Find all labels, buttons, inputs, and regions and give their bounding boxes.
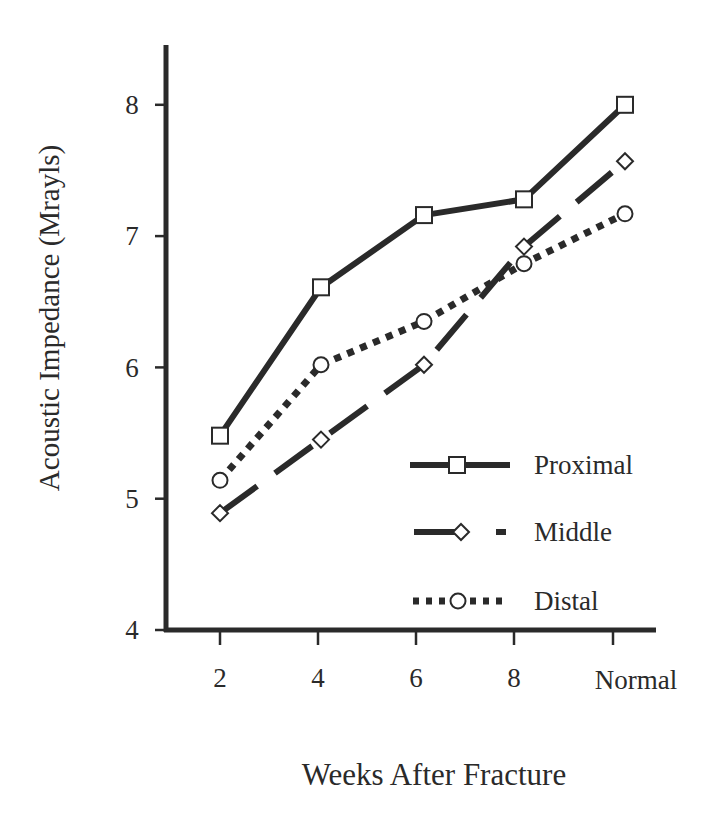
square-marker xyxy=(313,279,329,295)
circle-marker xyxy=(213,473,228,488)
square-marker xyxy=(516,191,532,207)
circle-marker xyxy=(451,594,466,609)
legend-symbol-distal xyxy=(413,594,508,609)
square-marker xyxy=(212,428,228,444)
circle-marker xyxy=(417,314,432,329)
x-tick-label: 4 xyxy=(311,663,325,694)
legend-symbol-proximal xyxy=(410,457,510,473)
circle-marker xyxy=(517,256,532,271)
y-axis-label: Acoustic Impedance (Mrayls) xyxy=(33,145,66,491)
y-tick-label: 6 xyxy=(125,353,139,384)
x-axis-label: Weeks After Fracture xyxy=(302,757,566,793)
diamond-marker xyxy=(453,524,469,540)
y-tick-label: 8 xyxy=(125,90,139,121)
y-tick-label: 7 xyxy=(125,221,139,252)
x-tick-label: 8 xyxy=(507,663,521,694)
square-marker xyxy=(617,97,633,113)
square-marker xyxy=(449,457,465,473)
legend-symbols xyxy=(410,457,510,609)
diamond-marker xyxy=(617,153,633,169)
legend-label-proximal: Proximal xyxy=(534,450,633,481)
circle-marker xyxy=(618,206,633,221)
y-tick-label: 4 xyxy=(125,615,139,646)
x-tick-label: 6 xyxy=(409,663,423,694)
circle-marker xyxy=(314,357,329,372)
series-line xyxy=(220,105,625,436)
y-tick-label: 5 xyxy=(125,484,139,515)
diamond-marker xyxy=(313,432,329,448)
series-proximal xyxy=(212,97,633,444)
axes xyxy=(155,45,656,645)
square-marker xyxy=(416,207,432,223)
x-tick-label: Normal xyxy=(595,665,677,696)
legend-label-middle: Middle xyxy=(534,517,612,548)
line-chart xyxy=(0,0,727,823)
legend-symbol-middle xyxy=(414,524,506,540)
x-tick-label: 2 xyxy=(213,663,227,694)
legend-label-distal: Distal xyxy=(534,586,599,617)
series-distal xyxy=(213,206,633,488)
